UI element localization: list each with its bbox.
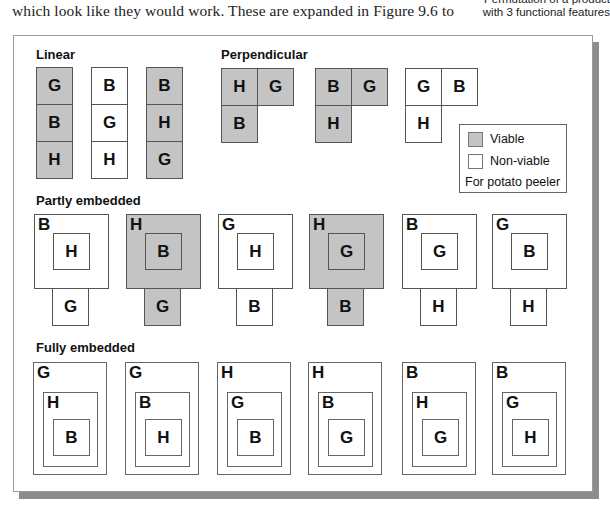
partly-embedded-outer: GB	[492, 214, 567, 289]
feature-label: G	[129, 363, 142, 383]
feature-label: G	[92, 113, 127, 133]
fully-embedded-outer: GBH	[125, 362, 199, 475]
feature-label: G	[231, 393, 244, 413]
feature-label: B	[54, 428, 89, 448]
linear-cell: G	[91, 104, 128, 142]
legend-note: For potato peeler	[465, 175, 560, 189]
section-title-perpendicular: Perpendicular	[221, 47, 308, 62]
figure-side-caption: Permutation of a product with 3 function…	[470, 0, 610, 19]
feature-label: G	[406, 77, 441, 97]
partly-embedded-attached: B	[327, 288, 364, 326]
fully-embedded-middle: HG	[412, 392, 467, 467]
partly-embedded-outer: GH	[218, 214, 293, 289]
linear-cell: G	[36, 67, 73, 105]
fully-embedded-inner: H	[145, 419, 182, 456]
feature-label: B	[512, 242, 547, 262]
feature-label: B	[146, 242, 181, 262]
feature-label: B	[328, 297, 363, 317]
feature-label: H	[130, 215, 142, 235]
partly-embedded-attached: B	[236, 288, 273, 326]
linear-cell: H	[146, 104, 183, 142]
fully-embedded-middle: BG	[318, 392, 373, 467]
legend-swatch-non-viable	[468, 154, 483, 169]
partly-embedded-attached: H	[420, 288, 457, 326]
partly-embedded-inner: H	[237, 233, 274, 270]
partly-embedded-inner: H	[53, 233, 90, 270]
feature-label: G	[53, 297, 88, 317]
feature-label: H	[421, 297, 456, 317]
legend: Viable Non-viable For potato peeler	[459, 124, 567, 193]
perpendicular-cell: G	[351, 68, 388, 106]
perpendicular-cell: H	[221, 68, 258, 106]
feature-label: H	[54, 242, 89, 262]
feature-label: G	[222, 215, 235, 235]
perpendicular-cell: G	[257, 68, 294, 106]
fully-embedded-inner: B	[237, 419, 274, 456]
feature-label: H	[92, 150, 127, 170]
feature-label: B	[222, 114, 257, 134]
fully-embedded-inner: G	[328, 419, 365, 456]
feature-label: H	[511, 297, 546, 317]
feature-label: B	[496, 363, 508, 383]
fully-embedded-inner: G	[422, 419, 459, 456]
section-title-linear: Linear	[36, 47, 75, 62]
legend-label-non-viable: Non-viable	[490, 154, 550, 168]
feature-label: H	[313, 215, 325, 235]
feature-label: G	[496, 215, 509, 235]
perpendicular-cell: B	[441, 68, 478, 106]
fully-embedded-outer: HBG	[308, 362, 382, 475]
section-title-partly-embedded: Partly embedded	[36, 193, 141, 208]
linear-cell: B	[36, 104, 73, 142]
feature-label: G	[423, 428, 458, 448]
feature-label: B	[316, 77, 351, 97]
partly-embedded-outer: HB	[126, 214, 201, 289]
feature-label: G	[422, 242, 457, 262]
feature-label: B	[139, 393, 151, 413]
partly-embedded-inner: B	[145, 233, 182, 270]
feature-label: G	[145, 297, 180, 317]
legend-label-viable: Viable	[490, 132, 525, 146]
partly-embedded-attached: G	[144, 288, 181, 326]
fully-embedded-middle: GB	[227, 392, 282, 467]
fully-embedded-outer: BHG	[402, 362, 476, 475]
feature-label: H	[238, 242, 273, 262]
fully-embedded-outer: GHB	[33, 362, 107, 475]
feature-label: H	[222, 77, 257, 97]
feature-label: H	[316, 114, 351, 134]
feature-label: G	[37, 76, 72, 96]
feature-label: G	[329, 242, 364, 262]
perpendicular-cell: H	[315, 105, 352, 143]
feature-label: G	[506, 393, 519, 413]
figure-frame: Linear Perpendicular Partly embedded Ful…	[13, 35, 593, 492]
feature-label: G	[37, 363, 50, 383]
partly-embedded-inner: B	[511, 233, 548, 270]
legend-swatch-viable	[468, 132, 483, 147]
perpendicular-cell: B	[315, 68, 352, 106]
partly-embedded-outer: HG	[309, 214, 384, 289]
fully-embedded-middle: BH	[135, 392, 190, 467]
linear-cell: H	[36, 141, 73, 179]
fully-embedded-middle: HB	[43, 392, 98, 467]
feature-label: H	[47, 393, 59, 413]
feature-label: H	[221, 363, 233, 383]
fully-embedded-outer: HGB	[217, 362, 291, 475]
fully-embedded-inner: B	[53, 419, 90, 456]
perpendicular-cell: H	[405, 105, 442, 143]
feature-label: H	[147, 113, 182, 133]
fully-embedded-middle: GH	[502, 392, 557, 467]
linear-cell: B	[146, 67, 183, 105]
linear-cell: B	[91, 67, 128, 105]
feature-label: B	[322, 393, 334, 413]
feature-label: H	[312, 363, 324, 383]
feature-label: B	[406, 363, 418, 383]
feature-label: G	[329, 428, 364, 448]
feature-label: H	[406, 114, 441, 134]
caption-line-2: with 3 functional features	[470, 6, 610, 19]
fully-embedded-outer: BGH	[492, 362, 566, 475]
section-title-fully-embedded: Fully embedded	[36, 340, 135, 355]
feature-label: H	[416, 393, 428, 413]
fully-embedded-inner: H	[512, 419, 549, 456]
partly-embedded-attached: G	[52, 288, 89, 326]
feature-label: B	[38, 215, 50, 235]
feature-label: B	[442, 77, 477, 97]
